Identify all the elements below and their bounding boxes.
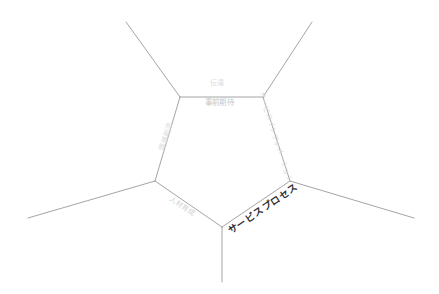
pentagon-face (155, 97, 290, 227)
diagram-canvas: 伝達 事前期待 サービスインフォメーション サービスプロセス 人材育成 価値創造 (0, 0, 439, 294)
ray-upper-left (126, 22, 180, 97)
ray-left (28, 181, 155, 218)
voronoi-diagram-svg (0, 0, 439, 294)
ray-right (290, 181, 414, 218)
ray-upper-right (263, 22, 312, 97)
